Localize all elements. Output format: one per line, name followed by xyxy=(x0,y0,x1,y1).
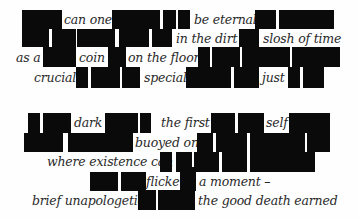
redaction-block xyxy=(242,47,290,67)
poem-word: as a xyxy=(16,49,41,67)
poem-word: in the dirt xyxy=(176,30,237,48)
poem-word: the first xyxy=(161,114,210,132)
poem-word: be eternal xyxy=(194,11,257,29)
redaction-block xyxy=(198,47,210,67)
poem-word: slosh of time xyxy=(263,30,341,48)
poem-word: just xyxy=(262,69,285,87)
redaction-block xyxy=(238,113,264,133)
poem-word: special xyxy=(144,69,187,87)
redaction-block xyxy=(105,113,138,133)
redaction-block xyxy=(22,10,62,29)
redaction-block xyxy=(122,67,140,88)
redaction-block xyxy=(68,133,133,152)
poem-word: a moment – xyxy=(199,173,270,191)
redaction-block xyxy=(28,113,40,133)
redaction-block xyxy=(43,47,76,67)
poem-word: self xyxy=(266,114,288,132)
redaction-block xyxy=(222,152,247,172)
redaction-block xyxy=(138,190,156,210)
redaction-block xyxy=(211,113,235,133)
redaction-block xyxy=(176,152,192,172)
poem-word: buoyed on xyxy=(135,134,199,152)
redaction-block xyxy=(194,152,219,172)
poem-word: on the floor xyxy=(128,49,199,67)
redaction-block xyxy=(160,152,172,172)
redaction-block xyxy=(108,47,126,67)
redaction-block xyxy=(186,67,231,88)
redaction-block xyxy=(279,10,334,29)
redaction-block xyxy=(119,29,149,47)
redaction-block xyxy=(163,10,176,29)
redaction-block xyxy=(24,133,63,152)
poem-word: brief unapologetic xyxy=(32,192,144,210)
redaction-block xyxy=(112,10,160,29)
redaction-block xyxy=(90,172,118,191)
poem-word: dark xyxy=(74,114,102,132)
redaction-block xyxy=(43,113,71,133)
redaction-block xyxy=(22,29,49,47)
poem-word: where existence can xyxy=(47,153,173,171)
redaction-block xyxy=(76,67,88,88)
redaction-block xyxy=(140,113,151,133)
redaction-block xyxy=(289,113,330,133)
poem-word: the good death earned xyxy=(198,192,337,210)
redaction-block xyxy=(121,172,146,191)
redaction-block xyxy=(197,133,213,152)
redaction-block xyxy=(180,172,195,210)
redaction-block xyxy=(77,29,115,47)
poem-word: crucial xyxy=(34,69,76,87)
poem-word: coin xyxy=(79,49,105,67)
redaction-block xyxy=(178,10,190,29)
redaction-block xyxy=(307,133,330,152)
redaction-block xyxy=(239,29,259,47)
redaction-block xyxy=(292,47,340,67)
redaction-block xyxy=(250,133,305,152)
redaction-block xyxy=(91,67,120,88)
redaction-block xyxy=(255,10,276,29)
redaction-block xyxy=(250,152,315,172)
redaction-block xyxy=(212,47,240,67)
redaction-block xyxy=(234,67,259,88)
redaction-block xyxy=(152,29,172,47)
poem-word: can one xyxy=(64,11,112,29)
redaction-block xyxy=(303,67,324,88)
redaction-block xyxy=(216,133,247,152)
blackout-poem-page: can one be eternal in the dirt slosh of … xyxy=(0,0,358,219)
redaction-block xyxy=(52,29,76,47)
redaction-block xyxy=(288,67,300,88)
